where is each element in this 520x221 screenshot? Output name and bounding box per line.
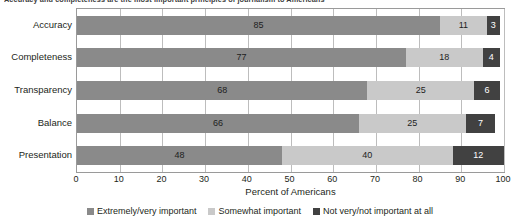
bar-segment: 3 [487, 16, 500, 35]
bar-row: 85113 [77, 16, 504, 35]
legend-label: Not very/not important at all [323, 206, 433, 216]
x-axis-label: Percent of Americans [76, 186, 505, 197]
x-axis-tick-label: 60 [312, 174, 352, 184]
bar-segment: 12 [453, 146, 504, 165]
legend-label: Somewhat important [218, 206, 301, 216]
legend-swatch-icon [313, 208, 320, 215]
bar-segment: 77 [77, 48, 406, 67]
x-axis-tick-label: 30 [184, 174, 224, 184]
bar-segment: 66 [77, 114, 359, 133]
bar-segment: 25 [367, 81, 474, 100]
x-axis-tick-label: 70 [355, 174, 395, 184]
x-axis-tick-label: 100 [483, 174, 520, 184]
chart-legend: Extremely/very importantSomewhat importa… [0, 204, 520, 218]
category-axis: AccuracyCompletenessTransparencyBalanceP… [0, 8, 72, 173]
bar-row: 484012 [77, 146, 504, 165]
chart-container: Accuracy and completeness are the most i… [0, 0, 520, 221]
legend-label: Extremely/very important [97, 206, 197, 216]
bar-segment: 18 [406, 48, 483, 67]
legend-item[interactable]: Not very/not important at all [313, 206, 433, 216]
category-label: Balance [0, 113, 72, 132]
bar-segment: 11 [440, 16, 487, 35]
bar-row: 68256 [77, 81, 504, 100]
category-label: Transparency [0, 80, 72, 99]
plot-area: 85113771846825666257484012 [76, 8, 505, 173]
category-label: Presentation [0, 145, 72, 164]
bar-segment: 48 [77, 146, 282, 165]
category-label: Accuracy [0, 15, 72, 34]
x-axis-tick-label: 90 [440, 174, 480, 184]
bar-segment: 7 [466, 114, 496, 133]
bar-segment: 40 [282, 146, 453, 165]
x-axis-tick-label: 20 [141, 174, 181, 184]
chart-title: Accuracy and completeness are the most i… [4, 0, 516, 4]
bar-segment: 25 [359, 114, 466, 133]
bar-row: 77184 [77, 48, 504, 67]
gridline [504, 9, 505, 172]
legend-item[interactable]: Extremely/very important [87, 206, 197, 216]
x-axis-tick-label: 10 [99, 174, 139, 184]
bar-row: 66257 [77, 114, 504, 133]
bar-rows: 85113771846825666257484012 [77, 9, 504, 172]
bar-segment: 85 [77, 16, 440, 35]
legend-swatch-icon [208, 208, 215, 215]
legend-item[interactable]: Somewhat important [208, 206, 301, 216]
category-label: Completeness [0, 47, 72, 66]
x-axis-tick-label: 0 [56, 174, 96, 184]
x-axis-ticks: 0102030405060708090100 [76, 174, 505, 186]
x-axis-tick-label: 40 [227, 174, 267, 184]
legend-swatch-icon [87, 208, 94, 215]
bar-segment: 68 [77, 81, 367, 100]
x-axis-tick-label: 80 [398, 174, 438, 184]
bar-segment: 6 [474, 81, 500, 100]
x-axis-tick-label: 50 [270, 174, 310, 184]
bar-segment: 4 [483, 48, 500, 67]
